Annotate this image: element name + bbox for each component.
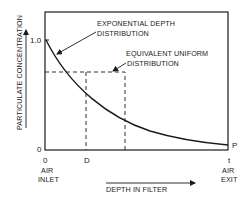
y-tick-0: 0 [37, 145, 42, 154]
air-exit-line1: AIR [222, 166, 234, 175]
air-inlet-line1: AIR [41, 166, 53, 175]
y-axis-label: PARTICULATE CONCENTRATION [15, 15, 24, 130]
x-axis-label: DEPTH IN FILTER [106, 185, 167, 194]
exponential-label-line1: EXPONENTIAL DEPTH [97, 19, 175, 28]
exponential-leader-arrow [57, 32, 96, 54]
uniform-distribution-line [45, 72, 125, 150]
filter-depth-diagram: EXPONENTIAL DEPTH DISTRIBUTION EQUIVALEN… [0, 0, 252, 199]
y-tick-1: 1.0 [30, 36, 42, 45]
x-tick-t: t [228, 156, 231, 165]
end-point-label: P [232, 141, 237, 150]
uniform-label-line2: DISTRIBUTION [127, 59, 179, 68]
x-tick-d: D [84, 156, 90, 165]
x-tick-0: 0 [43, 156, 48, 165]
uniform-leader-arrow [113, 63, 126, 71]
uniform-label-line1: EQUIVALENT UNIFORM [126, 49, 208, 58]
exponential-label-line2: DISTRIBUTION [97, 29, 149, 38]
air-inlet-line2: INLET [38, 175, 59, 184]
air-exit-line2: EXIT [221, 175, 238, 184]
